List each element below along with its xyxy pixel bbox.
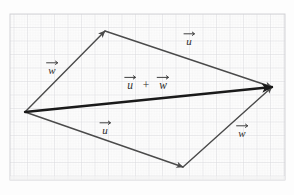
label-u-upper-right-text: u	[186, 35, 192, 47]
label-sum-u-text: u	[127, 79, 133, 91]
label-sum-plus-text: +	[143, 79, 150, 91]
vector-diagram-figure: w u u w	[0, 0, 294, 195]
label-w-lower-right-text: w	[238, 127, 246, 139]
label-sum-w-text: w	[159, 79, 167, 91]
vector-diagram-canvas: w u u w	[0, 0, 294, 195]
scan-shadow	[10, 176, 285, 180]
label-u-lower-left-text: u	[102, 124, 108, 136]
label-w-upper-left-text: w	[48, 64, 56, 76]
label-u-plus-w: u + w	[124, 76, 168, 91]
